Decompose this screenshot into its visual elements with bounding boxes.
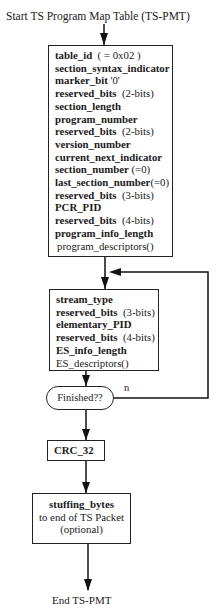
field-note: '0'	[110, 74, 119, 86]
pmt-header-fields: table_id ( = 0x02 ) section_syntax_indic…	[49, 46, 172, 252]
field-row: last_section_number(=0)	[55, 176, 172, 189]
arrowhead-down	[82, 375, 90, 386]
field-row: reserved_bits (3-bits)	[56, 306, 158, 319]
stuffing-line2: to end of TS Packet	[33, 511, 130, 524]
program-descriptors: program_descriptors()	[55, 240, 172, 253]
field-row: elementary_PID	[56, 318, 158, 331]
field-row: version_number	[55, 138, 172, 151]
field-name: program_number	[55, 113, 138, 125]
field-row: reserved_bits (4-bits)	[56, 331, 158, 344]
field-name: PCR_PID	[55, 201, 101, 213]
arrowhead-down	[82, 482, 90, 493]
arrowhead-down	[101, 277, 109, 289]
stuffing-box: stuffing_bytes to end of TS Packet (opti…	[32, 493, 131, 544]
field-note: (=0)	[150, 176, 169, 188]
no-branch-label: n	[124, 382, 129, 393]
es-descriptors: ES_descriptors()	[56, 357, 158, 370]
field-name: marker_bit	[55, 74, 108, 86]
field-name: reserved_bits	[55, 189, 117, 201]
field-row: section_length	[55, 100, 172, 113]
field-name: reserved_bits	[55, 125, 117, 137]
field-row: current_next_indicator	[55, 151, 172, 164]
stream-loop-fields: stream_type reserved_bits (3-bits) eleme…	[50, 290, 158, 369]
field-name: section_length	[55, 100, 121, 112]
field-row: section_syntax_indicator	[55, 62, 172, 75]
field-name: reserved_bits	[56, 306, 118, 318]
arrowhead-left	[109, 268, 121, 276]
field-row: stream_type	[56, 293, 158, 306]
field-note: (2-bits)	[122, 125, 154, 137]
field-name: section_syntax_indicator	[55, 62, 170, 74]
field-name: section_number	[55, 163, 129, 175]
field-name: table_id	[55, 49, 92, 61]
field-row: reserved_bits (3-bits)	[55, 189, 172, 202]
arrowhead-down	[100, 33, 108, 45]
crc-box: CRC_32	[47, 440, 105, 461]
finished-decision: Finished??	[46, 386, 114, 410]
field-name: current_next_indicator	[55, 151, 162, 163]
field-row: program_info_length	[55, 227, 172, 240]
field-name: stream_type	[56, 293, 113, 305]
field-note: (2-bits)	[122, 87, 154, 99]
arrowhead-down	[84, 579, 92, 591]
field-name: ES_info_length	[56, 344, 127, 356]
stuffing-title: stuffing_bytes	[33, 498, 130, 511]
field-note: ( = 0x02 )	[98, 49, 141, 61]
field-row: reserved_bits (2-bits)	[55, 125, 172, 138]
field-note: (=0)	[131, 163, 150, 175]
field-note: (3-bits)	[123, 306, 155, 318]
stuffing-line3: (optional)	[33, 523, 130, 536]
diagram-title: Start TS Program Map Table (TS-PMT)	[6, 10, 190, 22]
field-row: ES_info_length	[56, 344, 158, 357]
field-row: section_number (=0)	[55, 163, 172, 176]
field-row: reserved_bits (2-bits)	[55, 87, 172, 100]
field-row: marker_bit '0'	[55, 74, 172, 87]
stream-loop-box: stream_type reserved_bits (3-bits) eleme…	[49, 289, 159, 371]
pmt-header-box: table_id ( = 0x02 ) section_syntax_indic…	[48, 45, 173, 257]
field-row: program_number	[55, 113, 172, 126]
field-name: reserved_bits	[55, 87, 117, 99]
field-name: last_section_number	[55, 176, 150, 188]
crc-label: CRC_32	[54, 444, 94, 456]
end-label: End TS-PMT	[52, 594, 111, 606]
field-row: PCR_PID	[55, 201, 172, 214]
field-row: reserved_bits (4-bits)	[55, 214, 172, 227]
field-name: version_number	[55, 138, 131, 150]
arrowhead-down	[82, 429, 90, 440]
field-note: (4-bits)	[122, 214, 154, 226]
field-note: (4-bits)	[123, 331, 155, 343]
field-name: reserved_bits	[56, 331, 118, 343]
field-row: table_id ( = 0x02 )	[55, 49, 172, 62]
field-name: reserved_bits	[55, 214, 117, 226]
field-note: (3-bits)	[122, 189, 154, 201]
field-name: elementary_PID	[56, 318, 132, 330]
field-name: program_info_length	[55, 227, 153, 239]
